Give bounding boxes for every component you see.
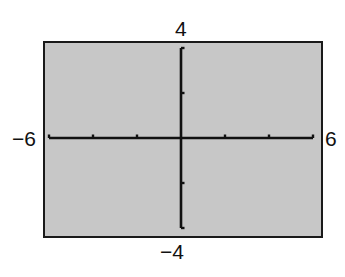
ymin-label: −4	[160, 241, 184, 262]
xmax-label: 6	[325, 128, 337, 149]
ymax-label: 4	[175, 18, 187, 39]
graph-viewing-window	[43, 41, 323, 238]
xmin-label: −6	[12, 128, 36, 149]
coordinate-axes	[45, 43, 321, 236]
